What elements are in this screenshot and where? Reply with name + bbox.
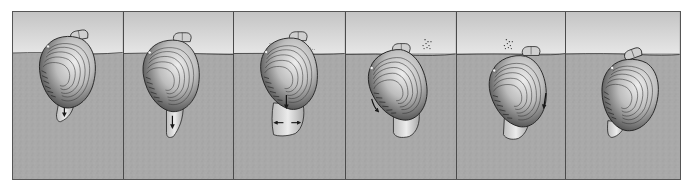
panel-6-burrowed xyxy=(566,12,680,179)
panel-3-foot-anchoring xyxy=(234,12,346,179)
clam-stage-5-illustration xyxy=(457,12,566,179)
clam-burrowing-figure xyxy=(12,11,681,180)
water-region xyxy=(457,12,566,54)
siphon-icon xyxy=(522,47,540,56)
panel-1-foot-probing xyxy=(13,12,124,179)
clam-stage-1-illustration xyxy=(13,12,123,179)
clam-stage-6-illustration xyxy=(566,12,680,179)
clam-stage-2-illustration xyxy=(124,12,234,179)
panel-4-shell-rocking xyxy=(346,12,457,179)
panel-2-foot-extended xyxy=(124,12,235,179)
clam-stage-4-illustration xyxy=(346,12,456,179)
clam-stage-3-illustration xyxy=(234,12,345,179)
panel-5-shell-pulled-down xyxy=(457,12,567,179)
water-region xyxy=(566,12,680,54)
